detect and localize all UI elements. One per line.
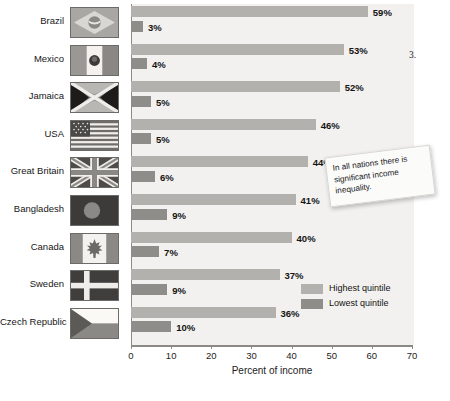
bar-highest-quintile-brazil <box>131 6 368 17</box>
category-label-czech-republic: Czech Republic <box>0 316 64 327</box>
legend-swatch-highest-quintile <box>301 284 323 294</box>
x-tick-70 <box>412 345 413 349</box>
page-text-list-item-3 <box>409 50 450 90</box>
bar-value-highest-czech-republic: 36% <box>281 308 300 319</box>
bar-value-lowest-sweden: 9% <box>172 285 186 296</box>
bar-lowest-quintile-brazil <box>131 21 143 32</box>
bar-value-lowest-canada: 7% <box>164 247 178 258</box>
x-tick-0 <box>131 345 132 349</box>
bar-value-lowest-great-britain: 6% <box>160 172 174 183</box>
bar-value-highest-canada: 40% <box>297 233 316 244</box>
bar-highest-quintile-mexico <box>131 44 344 55</box>
bar-lowest-quintile-bangladesh <box>131 209 167 220</box>
category-label-usa: USA <box>0 128 64 139</box>
bar-highest-quintile-jamaica <box>131 81 340 92</box>
bar-value-lowest-brazil: 3% <box>148 22 162 33</box>
flag-great-britain-icon <box>70 157 119 188</box>
bar-lowest-quintile-mexico <box>131 58 147 69</box>
bar-value-lowest-czech-republic: 10% <box>176 322 195 333</box>
category-label-great-britain: Great Britain <box>0 165 64 176</box>
x-tick-50 <box>332 345 333 349</box>
page-text-column-bottom <box>418 228 450 348</box>
bar-highest-quintile-czech-republic <box>131 307 276 318</box>
category-label-canada: Canada <box>0 241 64 252</box>
x-tick-60 <box>372 345 373 349</box>
x-tick-label-30: 30 <box>246 350 257 361</box>
bar-value-lowest-jamaica: 5% <box>156 97 170 108</box>
x-axis-title: Percent of income <box>131 365 413 376</box>
bar-value-lowest-mexico: 4% <box>152 59 166 70</box>
bar-lowest-quintile-sweden <box>131 284 167 295</box>
category-label-brazil: Brazil <box>0 15 64 26</box>
flag-brazil-icon <box>70 7 119 38</box>
x-tick-40 <box>292 345 293 349</box>
x-tick-label-50: 50 <box>326 350 337 361</box>
x-tick-label-20: 20 <box>206 350 217 361</box>
callout-text: In all nations there is significant inco… <box>332 151 433 197</box>
x-tick-label-60: 60 <box>367 350 378 361</box>
flag-canada-icon <box>70 233 119 264</box>
x-tick-label-10: 10 <box>166 350 177 361</box>
x-tick-20 <box>211 345 212 349</box>
bar-value-highest-jamaica: 52% <box>345 82 364 93</box>
legend-label-highest-quintile: Highest quintile <box>329 283 391 293</box>
bar-lowest-quintile-canada <box>131 246 159 257</box>
bar-lowest-quintile-jamaica <box>131 96 151 107</box>
flag-mexico-icon <box>70 45 119 76</box>
bar-highest-quintile-usa <box>131 119 316 130</box>
bar-value-lowest-usa: 5% <box>156 134 170 145</box>
legend-swatch-lowest-quintile <box>301 299 323 309</box>
category-label-jamaica: Jamaica <box>0 90 64 101</box>
bar-value-highest-sweden: 37% <box>285 270 304 281</box>
flag-bangladesh-icon <box>70 195 119 226</box>
bar-value-highest-mexico: 53% <box>349 45 368 56</box>
bar-lowest-quintile-great-britain <box>131 171 155 182</box>
bar-value-highest-usa: 46% <box>321 120 340 131</box>
legend-label-lowest-quintile: Lowest quintile <box>329 298 389 308</box>
bar-lowest-quintile-czech-republic <box>131 321 171 332</box>
x-tick-label-40: 40 <box>286 350 297 361</box>
bar-value-highest-brazil: 59% <box>373 7 392 18</box>
x-tick-label-0: 0 <box>128 350 133 361</box>
x-tick-10 <box>171 345 172 349</box>
income-inequality-chart-figure: 010203040506070 Percent of income Brazil… <box>0 0 450 401</box>
bar-highest-quintile-canada <box>131 232 292 243</box>
page-text-column-top <box>418 2 450 48</box>
x-tick-30 <box>251 345 252 349</box>
category-label-mexico: Mexico <box>0 53 64 64</box>
x-tick-label-70: 70 <box>407 350 418 361</box>
bar-highest-quintile-bangladesh <box>131 194 296 205</box>
bar-lowest-quintile-usa <box>131 133 151 144</box>
flag-usa-icon <box>70 120 119 151</box>
flag-czech-republic-icon <box>70 308 119 339</box>
flag-jamaica-icon <box>70 82 119 113</box>
bar-highest-quintile-great-britain <box>131 156 308 167</box>
bar-value-lowest-bangladesh: 9% <box>172 210 186 221</box>
category-label-sweden: Sweden <box>0 278 64 289</box>
bar-value-highest-bangladesh: 41% <box>301 195 320 206</box>
category-label-bangladesh: Bangladesh <box>0 203 64 214</box>
x-axis-line <box>131 345 413 347</box>
flag-sweden-icon <box>70 270 119 301</box>
bar-highest-quintile-sweden <box>131 269 280 280</box>
